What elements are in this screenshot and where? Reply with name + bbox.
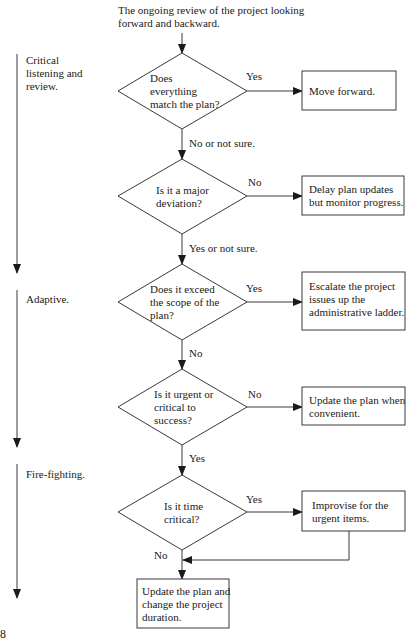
action-text-3: Escalate the project issues up the admin… — [309, 280, 404, 319]
phase-label-critical: Critical listening and review. — [26, 54, 83, 93]
decision-1-yes-label: Yes — [246, 70, 262, 83]
phase-label-fire-fighting: Fire-fighting. — [26, 468, 85, 481]
decision-question-2: Is it a major deviation? — [156, 184, 209, 210]
final-action-text: Update the plan and change the project d… — [142, 585, 230, 624]
decision-question-4: Is it urgent or critical to success? — [154, 388, 213, 427]
decision-1-down-label: No or not sure. — [189, 137, 255, 150]
action-text-1: Move forward. — [309, 85, 375, 98]
page-number-fragment: 8 — [0, 628, 6, 639]
intro-text: The ongoing review of the project lookin… — [118, 4, 304, 30]
decision-2-down-label: Yes or not sure. — [189, 242, 258, 255]
decision-2-no-label: No — [248, 176, 261, 189]
decision-4-down-label: Yes — [189, 452, 205, 465]
action-text-4: Update the plan when convenient. — [309, 394, 405, 420]
decision-5-down-label: No — [154, 549, 167, 562]
decision-3-down-label: No — [189, 347, 202, 360]
decision-3-yes-label: Yes — [246, 282, 262, 295]
decision-question-5: Is it time critical? — [164, 500, 203, 526]
decision-4-no-label: No — [248, 388, 261, 401]
decision-5-yes-label: Yes — [246, 493, 262, 506]
phase-label-adaptive: Adaptive. — [26, 293, 69, 306]
action-text-2: Delay plan updates but monitor progress. — [309, 183, 403, 209]
decision-question-1: Does everything match the plan? — [150, 72, 220, 111]
decision-question-3: Does it exceed the scope of the plan? — [150, 283, 219, 322]
action-text-5: Improvise for the urgent items. — [312, 499, 388, 525]
flowchart: The ongoing review of the project lookin… — [0, 0, 415, 639]
